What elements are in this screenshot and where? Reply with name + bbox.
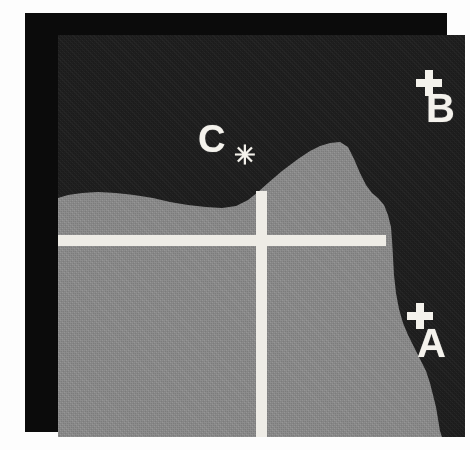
marker-label-c: C (198, 120, 225, 158)
grid-line-vertical (256, 191, 267, 437)
asterisk-marker-icon: ✳ (234, 142, 256, 168)
marker-label-a: A (417, 323, 446, 363)
figure-frame: C ✳ B A (25, 13, 447, 432)
land-polygon (58, 142, 442, 437)
marker-group-a[interactable]: A (403, 303, 465, 398)
marker-group-c[interactable]: C ✳ (198, 120, 278, 180)
marker-label-b: B (426, 88, 455, 128)
map-canvas[interactable]: C ✳ B A (58, 35, 465, 437)
marker-group-b[interactable]: B (408, 70, 465, 165)
grid-line-horizontal (58, 235, 386, 246)
